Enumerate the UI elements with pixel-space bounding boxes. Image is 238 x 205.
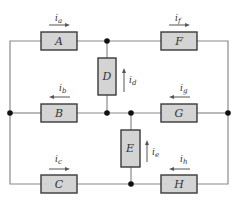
circuit-diagram: A ia B ib C ic D id E ie F if (0, 0, 238, 205)
svg-text:G: G (175, 107, 184, 120)
element-b: B ib (41, 83, 77, 122)
svg-text:ih: ih (180, 154, 187, 166)
svg-text:F: F (174, 35, 183, 48)
element-c: C ic (41, 154, 77, 193)
element-a: A ia (41, 13, 77, 50)
node-left (7, 110, 13, 116)
svg-text:A: A (54, 35, 63, 48)
svg-text:ic: ic (55, 154, 62, 166)
svg-text:ia: ia (55, 13, 62, 25)
svg-text:E: E (125, 142, 134, 155)
svg-text:C: C (55, 178, 64, 191)
svg-text:id: id (129, 75, 137, 87)
element-e: E ie (121, 130, 159, 167)
node-right (225, 110, 231, 116)
svg-text:if: if (175, 13, 182, 25)
svg-text:D: D (102, 70, 112, 83)
element-g: G ig (161, 83, 197, 122)
svg-text:ib: ib (59, 83, 67, 95)
element-h: H ih (161, 154, 197, 193)
svg-text:B: B (54, 107, 63, 120)
svg-text:ie: ie (152, 147, 159, 159)
node-top (104, 38, 110, 44)
element-f: F if (161, 13, 197, 50)
element-d: D id (98, 58, 137, 95)
node-bottom (128, 181, 134, 187)
node-center-right (128, 110, 134, 116)
svg-text:ig: ig (180, 83, 188, 95)
svg-text:H: H (173, 178, 184, 191)
node-center-left (104, 110, 110, 116)
